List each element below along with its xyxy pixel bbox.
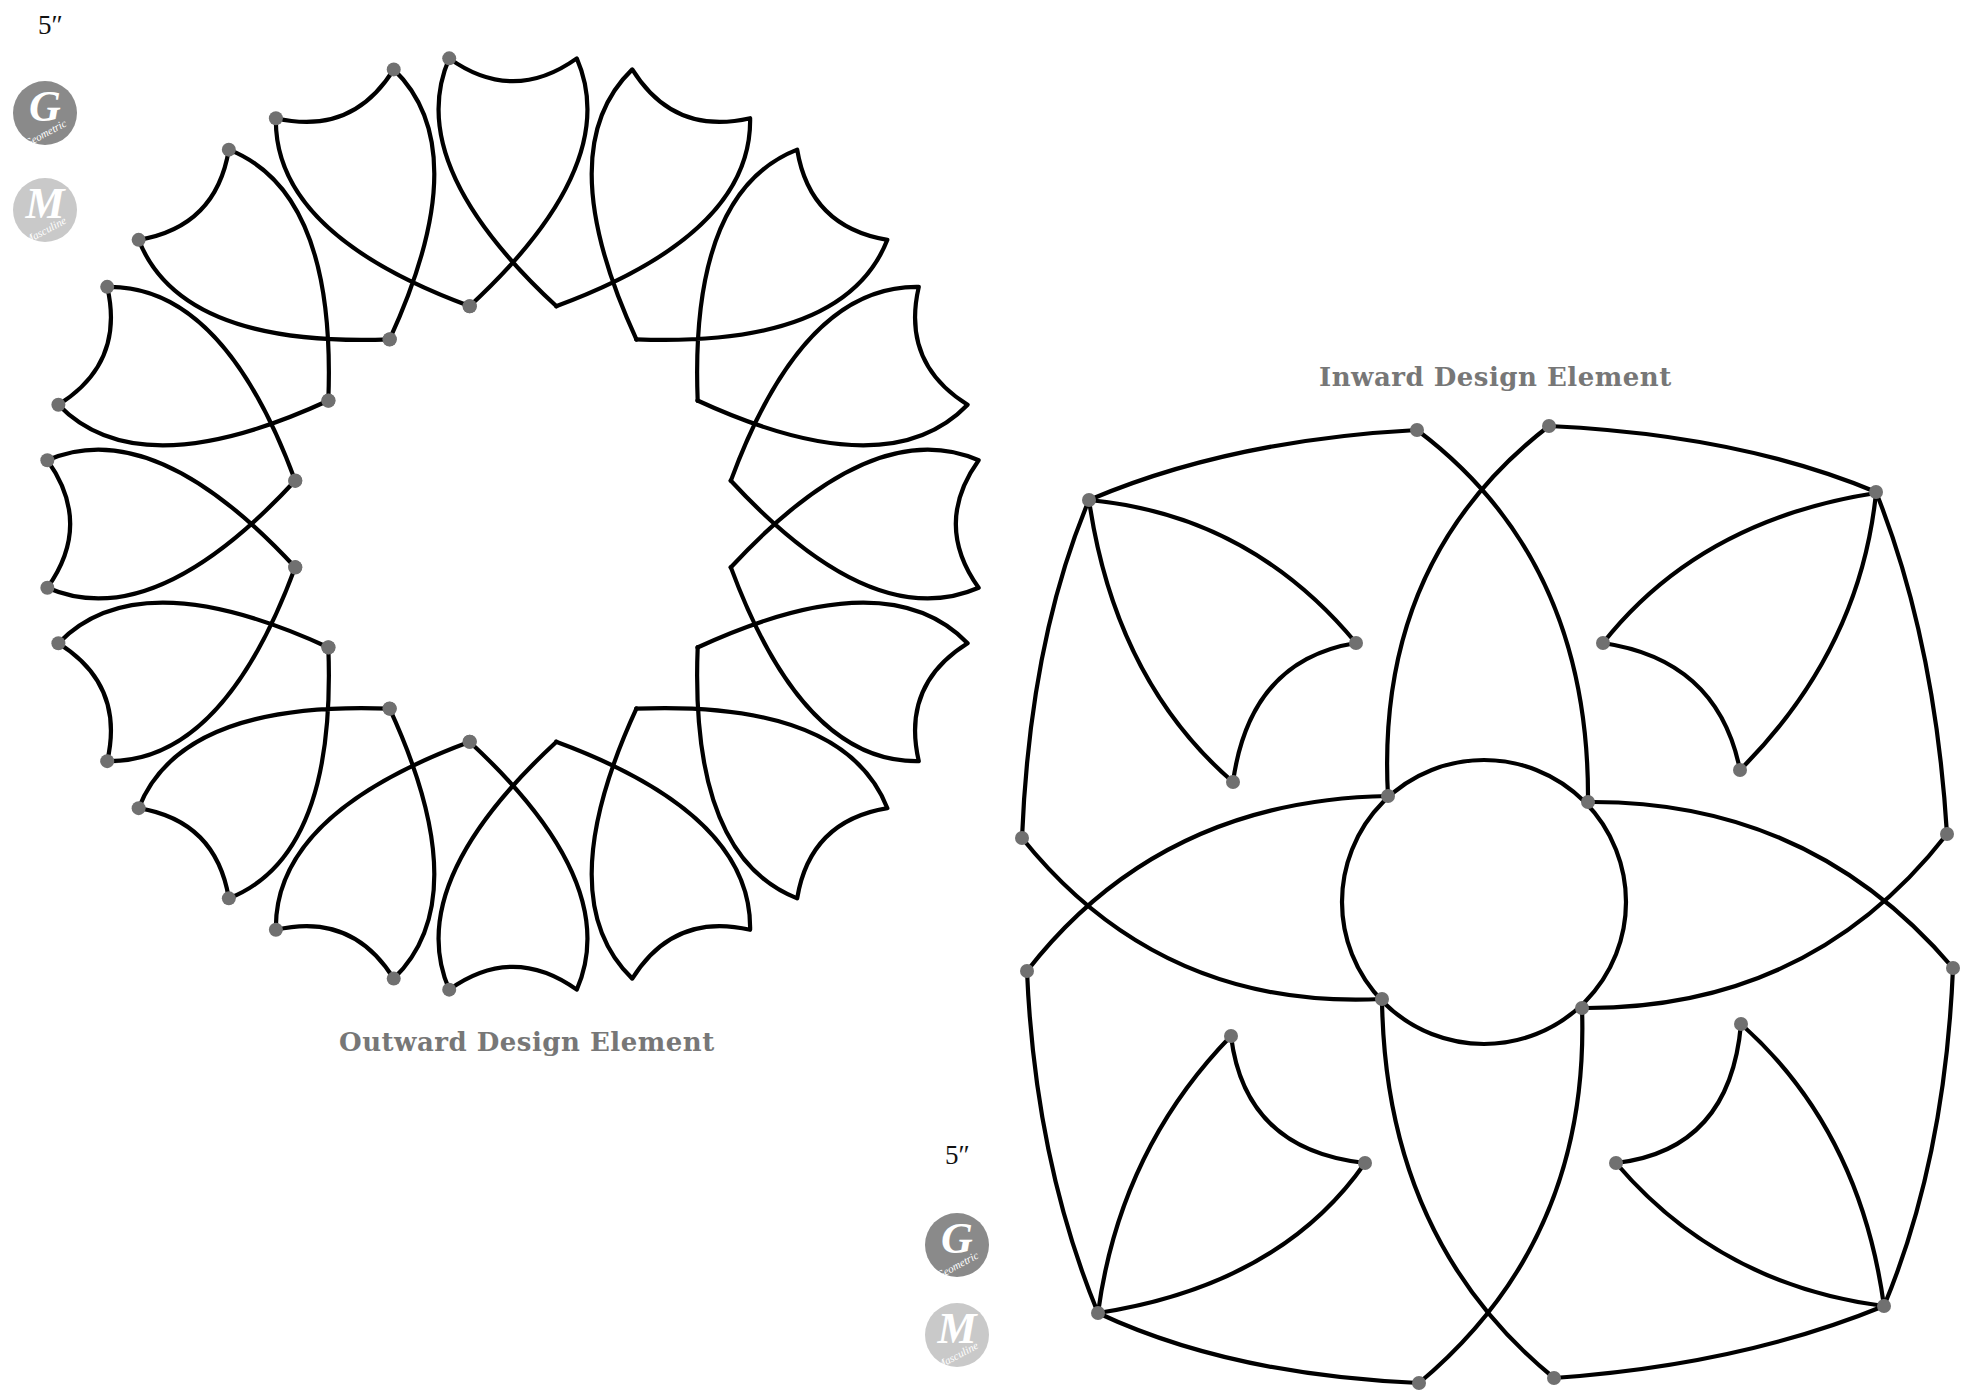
dot: [1015, 831, 1029, 845]
dot: [322, 640, 336, 654]
pattern-canvas: [0, 0, 1969, 1400]
petal: [139, 647, 390, 898]
geometric-badge: G Geometric: [925, 1213, 989, 1277]
dot: [222, 143, 236, 157]
petal: [731, 450, 979, 599]
petal-left-arm-top: [1027, 796, 1388, 971]
inward-size-label: 5″: [945, 1140, 970, 1171]
petal-right-arm-top: [1588, 802, 1953, 968]
frame-right-bottom: [1884, 968, 1953, 1306]
dot: [132, 233, 146, 247]
dot: [1596, 636, 1610, 650]
dot: [132, 801, 146, 815]
dot: [40, 453, 54, 467]
inward-design-element: [1022, 426, 1953, 1383]
dot: [1082, 493, 1096, 507]
fan-top-right: [1603, 493, 1876, 770]
dot: [442, 51, 456, 65]
outward-size-label: 5″: [38, 10, 63, 41]
petal: [636, 647, 887, 898]
dot: [1224, 1029, 1238, 1043]
dot: [269, 111, 283, 125]
dot: [1542, 419, 1556, 433]
frame-right-top: [1876, 492, 1947, 834]
dot: [463, 299, 477, 313]
petal: [276, 708, 470, 978]
dot: [387, 972, 401, 986]
frame-bottom-right: [1554, 1306, 1884, 1378]
dot: [1869, 485, 1883, 499]
petal: [439, 742, 588, 990]
dot: [100, 280, 114, 294]
dot: [1734, 1017, 1748, 1031]
geometric-badge: G Geometric: [13, 81, 77, 145]
fan-top-left: [1089, 500, 1356, 782]
dot: [321, 394, 335, 408]
dot: [1547, 1371, 1561, 1385]
petal: [47, 450, 295, 599]
dot: [1581, 795, 1595, 809]
dot: [1575, 1001, 1589, 1015]
frame-left-bottom: [1027, 971, 1098, 1313]
dot: [1020, 964, 1034, 978]
dot: [1946, 961, 1960, 975]
petal-top-arm-right: [1417, 430, 1588, 802]
dot: [1609, 1156, 1623, 1170]
petal: [636, 150, 887, 401]
dot: [1412, 1376, 1426, 1390]
frame-top-right: [1549, 426, 1876, 492]
petal: [697, 287, 967, 481]
dot: [442, 983, 456, 997]
dot: [51, 398, 65, 412]
dot: [1877, 1299, 1891, 1313]
petal-bottom-arm-left: [1382, 999, 1554, 1378]
dot: [1349, 636, 1363, 650]
dot: [1226, 775, 1240, 789]
dot: [1091, 1306, 1105, 1320]
dot: [387, 62, 401, 76]
dot: [383, 333, 397, 347]
masculine-badge: M Masculine: [925, 1303, 989, 1367]
dot: [1940, 827, 1954, 841]
dot: [463, 735, 477, 749]
petal: [556, 69, 750, 339]
masculine-badge: M Masculine: [13, 178, 77, 242]
dot: [222, 891, 236, 905]
petal: [439, 58, 588, 306]
outward-design-label: Outward Design Element: [339, 1027, 715, 1057]
fan-bottom-right: [1616, 1024, 1884, 1306]
petal: [556, 708, 750, 978]
inward-design-dots: [1015, 419, 1960, 1390]
dot: [383, 702, 397, 716]
petal: [276, 69, 470, 339]
dot: [269, 923, 283, 937]
dot: [1358, 1156, 1372, 1170]
inward-design-label: Inward Design Element: [1319, 362, 1672, 392]
petal: [58, 287, 328, 481]
dot: [51, 636, 65, 650]
frame-left-top: [1022, 500, 1089, 838]
dot: [288, 474, 302, 488]
petal: [58, 567, 328, 761]
outward-design-element: [47, 58, 978, 989]
dot: [100, 754, 114, 768]
dot: [1410, 423, 1424, 437]
petal-top-arm-left: [1387, 426, 1549, 796]
dot: [288, 561, 302, 575]
dot: [40, 581, 54, 595]
dot: [1375, 992, 1389, 1006]
petal: [139, 150, 390, 401]
outward-design-dots: [40, 51, 477, 996]
dot: [1733, 763, 1747, 777]
fan-bottom-left: [1098, 1036, 1365, 1313]
frame-top-left: [1089, 430, 1417, 500]
frame-bottom-left: [1098, 1313, 1419, 1383]
dot: [1381, 789, 1395, 803]
petal: [697, 567, 967, 761]
petal-right-arm-bottom: [1582, 834, 1947, 1008]
